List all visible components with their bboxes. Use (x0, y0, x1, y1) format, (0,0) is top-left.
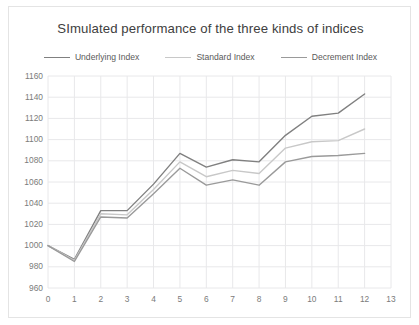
y-tick-label: 1000 (9, 240, 43, 250)
y-tick-label: 1120 (9, 113, 43, 123)
x-tick-label: 13 (379, 294, 403, 304)
y-tick-label: 1080 (9, 155, 43, 165)
y-tick-label: 1020 (9, 219, 43, 229)
y-tick-label: 1100 (9, 134, 43, 144)
y-tick-label: 1140 (9, 92, 43, 102)
x-tick-label: 9 (273, 294, 297, 304)
plot-area: 9609801000102010401060108011001120114011… (9, 7, 412, 319)
plot-svg (9, 7, 412, 319)
x-tick-label: 3 (115, 294, 139, 304)
x-tick-label: 12 (353, 294, 377, 304)
x-tick-label: 4 (142, 294, 166, 304)
x-tick-label: 0 (36, 294, 60, 304)
y-tick-label: 1040 (9, 198, 43, 208)
x-tick-label: 2 (89, 294, 113, 304)
x-tick-label: 10 (300, 294, 324, 304)
y-tick-label: 980 (9, 261, 43, 271)
y-tick-label: 960 (9, 283, 43, 293)
chart-container: SImulated performance of the three kinds… (8, 6, 411, 318)
x-tick-label: 8 (247, 294, 271, 304)
x-tick-label: 11 (326, 294, 350, 304)
x-tick-label: 6 (194, 294, 218, 304)
y-tick-label: 1060 (9, 177, 43, 187)
x-tick-label: 5 (168, 294, 192, 304)
x-tick-label: 1 (62, 294, 86, 304)
y-tick-label: 1160 (9, 71, 43, 81)
x-tick-label: 7 (221, 294, 245, 304)
